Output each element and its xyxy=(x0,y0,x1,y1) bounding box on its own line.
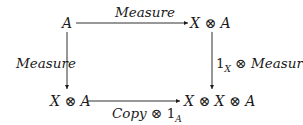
node-bottom-left: X ⊗ A xyxy=(50,94,91,108)
label-right-rest: ⊗ Measure xyxy=(231,55,303,71)
label-top-arrow: Measure xyxy=(115,5,175,19)
label-left-arrow: Measure xyxy=(16,56,76,70)
label-bottom-arrow: Copy ⊗ 1A xyxy=(112,106,182,125)
node-top-left: A xyxy=(62,16,72,30)
label-right-one: 1 xyxy=(216,55,225,71)
node-bottom-right: X ⊗ X ⊗ A xyxy=(184,94,255,108)
label-bottom-one: 1 xyxy=(167,105,176,121)
node-top-right: X ⊗ A xyxy=(190,16,231,30)
label-bottom-copy: Copy ⊗ xyxy=(112,105,167,121)
label-bottom-sub: A xyxy=(175,114,182,124)
label-right-arrow: 1X ⊗ Measure xyxy=(216,56,303,76)
